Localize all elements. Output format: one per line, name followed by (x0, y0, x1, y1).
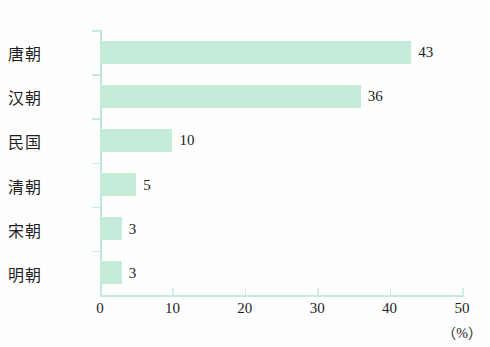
x-axis-tick (245, 288, 247, 295)
x-axis-tick-label: 10 (165, 300, 180, 317)
bar-row: 3 (100, 217, 490, 240)
y-axis-tick (92, 30, 100, 32)
bar-value-label: 3 (129, 220, 137, 237)
y-axis-tick (92, 74, 100, 76)
bar (100, 261, 122, 284)
bar-row: 10 (100, 129, 490, 152)
category-label-6: 明朝 (8, 262, 88, 286)
x-axis-tick-label: 30 (310, 300, 325, 317)
x-axis-tick (317, 288, 319, 295)
bar-value-label: 43 (418, 44, 433, 61)
category-label-2: 汉朝 (8, 85, 88, 109)
y-axis-tick (92, 207, 100, 209)
bar-row: 5 (100, 173, 490, 196)
x-axis-line (100, 295, 464, 297)
bar-value-label: 3 (129, 264, 137, 281)
bar-value-label: 36 (368, 88, 383, 105)
bar (100, 129, 172, 152)
category-label-5: 宋朝 (8, 218, 88, 242)
x-axis-tick-label: 40 (382, 300, 397, 317)
bar-value-label: 10 (179, 132, 194, 149)
y-axis-tick (92, 251, 100, 253)
x-axis-tick-label: 20 (237, 300, 252, 317)
bar (100, 85, 361, 108)
bar (100, 217, 122, 240)
y-axis-tick (92, 118, 100, 120)
x-axis-tick (390, 288, 392, 295)
x-axis-tick (172, 288, 174, 295)
bar-row: 3 (100, 261, 490, 284)
y-axis-line (100, 30, 102, 296)
bar (100, 173, 136, 196)
category-label-4: 清朝 (8, 174, 88, 198)
x-axis-tick (462, 288, 464, 295)
bar-chart: 433610533 唐朝汉朝民国清朝宋朝明朝 01020304050 （%） (0, 0, 490, 347)
bar-row: 36 (100, 85, 490, 108)
category-label-1: 唐朝 (8, 41, 88, 65)
bar (100, 41, 411, 64)
x-axis-tick-label: 0 (96, 300, 104, 317)
y-axis-tick (92, 163, 100, 165)
bar-value-label: 5 (143, 176, 151, 193)
category-label-3: 民国 (8, 129, 88, 153)
bar-row: 43 (100, 41, 490, 64)
x-axis-unit-label: （%） (442, 322, 482, 342)
x-axis-tick-label: 50 (455, 300, 470, 317)
